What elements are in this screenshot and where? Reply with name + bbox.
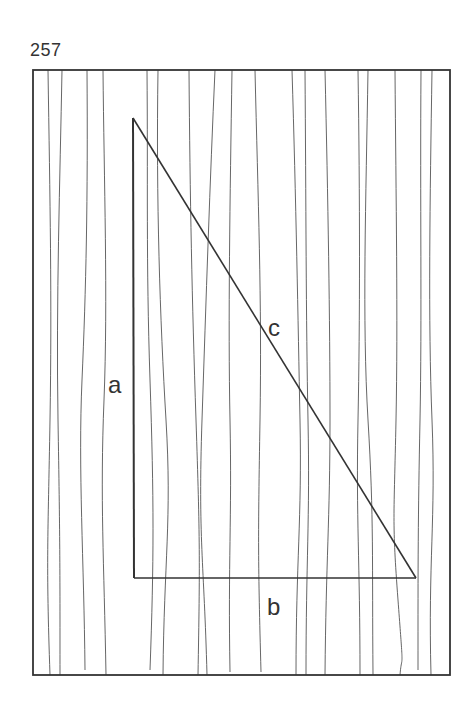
wood-grain-lines [48, 70, 433, 675]
triangle-diagram: a b c [0, 0, 471, 701]
right-triangle [133, 118, 416, 578]
label-a: a [108, 371, 122, 398]
side-a [133, 118, 134, 578]
label-b: b [267, 593, 280, 620]
label-c: c [268, 314, 280, 341]
wood-board-frame [33, 70, 450, 675]
hypotenuse-c [133, 118, 416, 578]
